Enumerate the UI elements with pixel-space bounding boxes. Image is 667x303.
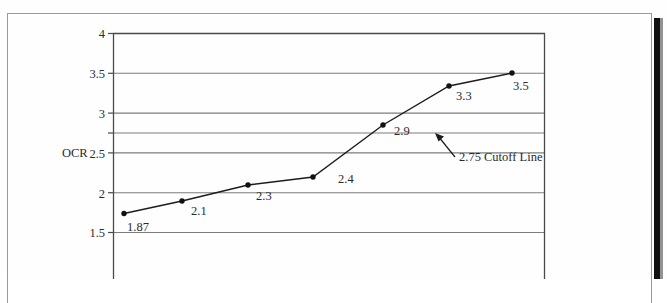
data-point-label: 2.9 <box>394 124 410 138</box>
y-tick-label-2: 2 <box>99 187 105 201</box>
data-point-marker[interactable] <box>380 122 385 127</box>
data-point-label: 2.3 <box>256 189 272 203</box>
y-tick-label-1.5: 1.5 <box>89 226 105 240</box>
data-point-marker[interactable] <box>509 70 514 75</box>
y-tick-label-3.5: 3.5 <box>89 67 105 81</box>
y-tick-label-4: 4 <box>99 27 106 41</box>
data-point-label: 3.5 <box>513 79 529 93</box>
data-point-marker[interactable] <box>310 174 315 179</box>
data-point-marker[interactable] <box>179 198 184 203</box>
y-axis-ticks <box>108 34 113 233</box>
y-axis-title: OCR <box>62 146 88 160</box>
data-point-marker[interactable] <box>121 211 126 216</box>
y-tick-label-2.5: 2.5 <box>89 147 105 161</box>
cutoff-arrow-head <box>435 133 444 142</box>
data-point-label: 2.1 <box>191 204 207 218</box>
data-point-label: 1.87 <box>127 220 149 234</box>
data-point-marker[interactable] <box>245 182 250 187</box>
y-tick-label-3: 3 <box>99 107 105 121</box>
cutoff-line-label: 2.75 Cutoff Line <box>459 150 543 164</box>
data-point-label: 2.4 <box>338 172 354 186</box>
data-point-label: 3.3 <box>456 89 472 103</box>
data-point-marker[interactable] <box>446 83 451 88</box>
gridlines <box>113 34 545 233</box>
